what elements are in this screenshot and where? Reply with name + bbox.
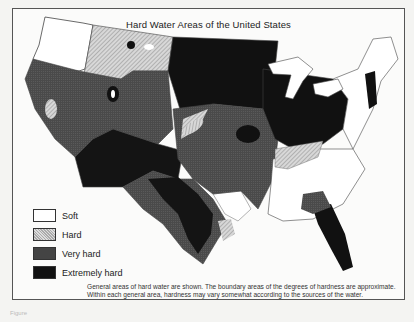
region-texas-coast-hard xyxy=(218,219,235,241)
map-legend: Soft Hard Very hard Extremely hard xyxy=(33,207,123,283)
extremely-hard-swatch-icon xyxy=(33,266,56,279)
spot-montana-extremely xyxy=(127,41,135,49)
legend-item-extremely-hard: Extremely hard xyxy=(33,264,123,281)
legend-item-very-hard: Very hard xyxy=(33,245,123,262)
legend-label: Soft xyxy=(62,211,78,221)
spot-montana-soft xyxy=(144,44,154,50)
map-note: General areas of hard water are shown. T… xyxy=(87,283,407,299)
hard-swatch-icon xyxy=(33,228,56,241)
very-hard-swatch-icon xyxy=(33,247,56,260)
soft-swatch-icon xyxy=(33,209,56,222)
spot-california-hard xyxy=(45,99,57,119)
legend-label: Extremely hard xyxy=(62,268,123,278)
spot-ozark-extremely xyxy=(236,125,260,143)
spot-utah-soft-center xyxy=(111,90,115,98)
legend-label: Hard xyxy=(62,230,82,240)
figure-caption: Figure xyxy=(10,310,27,316)
legend-label: Very hard xyxy=(62,249,101,259)
region-florida-extremely-hard xyxy=(313,204,353,271)
legend-item-hard: Hard xyxy=(33,226,123,243)
legend-item-soft: Soft xyxy=(33,207,123,224)
map-figure-frame: Hard Water Areas of the United States xyxy=(12,8,405,300)
